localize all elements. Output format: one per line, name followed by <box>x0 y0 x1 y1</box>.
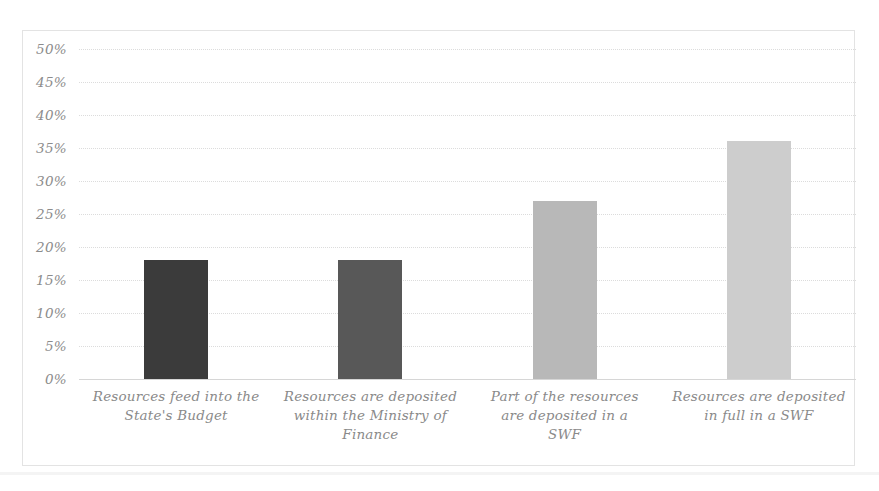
x-axis-category-label-line: Finance <box>273 425 467 444</box>
y-axis-tick-label: 20% <box>36 239 67 255</box>
x-axis-category-label-line: within the Ministry of <box>273 406 467 425</box>
y-axis-tick-label: 40% <box>36 107 67 123</box>
x-axis-category-label: Resources are depositedin full in a SWF <box>662 387 856 425</box>
y-axis-tick-label: 30% <box>36 173 67 189</box>
x-axis-category-label: Resources are depositedwithin the Minist… <box>273 387 467 444</box>
x-axis-category-label-line: in full in a SWF <box>662 406 856 425</box>
bar[interactable] <box>144 260 208 379</box>
x-axis-category-label-line: Resources feed into the <box>79 387 273 406</box>
chart-frame: 50%45%40%35%30%25%20%15%10%5%0% Resource… <box>22 30 855 466</box>
y-axis-tick-label: 25% <box>36 206 67 222</box>
y-axis-tick-label: 10% <box>36 305 67 321</box>
y-axis-tick-label: 5% <box>45 338 67 354</box>
x-axis-category-label-line: are deposited in a <box>468 406 662 425</box>
x-axis-category-labels: Resources feed into theState's BudgetRes… <box>79 387 856 463</box>
y-axis-tick-label: 50% <box>36 41 67 57</box>
x-axis-category-label-line: Resources are deposited <box>662 387 856 406</box>
bar[interactable] <box>338 260 402 379</box>
y-axis-tick-label: 35% <box>36 140 67 156</box>
x-axis-category-label-line: Part of the resources <box>468 387 662 406</box>
plot-area: 50%45%40%35%30%25%20%15%10%5%0% <box>79 49 856 379</box>
bar-slot <box>273 49 467 379</box>
x-axis-category-label: Part of the resourcesare deposited in aS… <box>468 387 662 444</box>
x-axis-category-label-line: State's Budget <box>79 406 273 425</box>
bar-slot <box>468 49 662 379</box>
page-edge-shadow <box>0 472 879 475</box>
bar-slot <box>79 49 273 379</box>
x-axis-category-label: Resources feed into theState's Budget <box>79 387 273 425</box>
x-axis-category-label-line: Resources are deposited <box>273 387 467 406</box>
bar-series <box>79 49 856 379</box>
bar[interactable] <box>727 141 791 379</box>
x-axis-category-label-line: SWF <box>468 425 662 444</box>
bar-slot <box>662 49 856 379</box>
bar[interactable] <box>533 201 597 379</box>
y-axis-tick-label: 0% <box>45 371 67 387</box>
y-axis-tick-label: 45% <box>36 74 67 90</box>
gridline <box>79 379 856 380</box>
y-axis-tick-label: 15% <box>36 272 67 288</box>
